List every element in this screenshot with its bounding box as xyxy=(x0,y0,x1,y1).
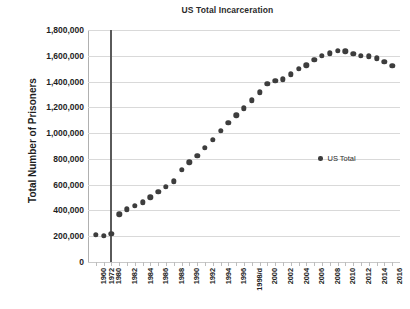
data-point[interactable] xyxy=(132,203,137,208)
data-point[interactable] xyxy=(210,137,215,142)
x-axis-tick-label: 1992 xyxy=(208,268,217,284)
x-axis-tick-label: 1982 xyxy=(130,268,139,284)
x-axis-tick xyxy=(299,262,300,266)
x-axis-tick xyxy=(252,262,253,266)
data-point[interactable] xyxy=(288,72,293,77)
data-point[interactable] xyxy=(101,233,106,238)
x-axis-tick-label: 2012 xyxy=(364,268,373,284)
x-axis-tick xyxy=(96,262,97,266)
x-axis-tick xyxy=(166,262,167,266)
x-axis-tick-label: 1998/d xyxy=(255,268,264,291)
data-point[interactable] xyxy=(187,160,192,165)
x-axis-tick xyxy=(197,262,198,266)
chart-legend: US Total xyxy=(318,154,356,163)
x-axis-tick xyxy=(384,262,385,266)
data-point[interactable] xyxy=(304,63,309,68)
x-axis-tick-label: 2010 xyxy=(348,268,357,284)
x-axis-tick xyxy=(314,262,315,266)
data-point[interactable] xyxy=(374,56,379,61)
data-point[interactable] xyxy=(366,53,371,58)
y-axis-tick-label: 1,200,000 xyxy=(0,102,84,112)
x-axis-tick xyxy=(213,262,214,266)
data-point[interactable] xyxy=(335,48,340,53)
x-axis-tick-label: 2000 xyxy=(270,268,279,284)
x-axis-tick xyxy=(361,262,362,266)
x-axis-tick xyxy=(369,262,370,266)
data-point[interactable] xyxy=(343,49,348,54)
data-point[interactable] xyxy=(233,113,238,118)
x-axis-tick xyxy=(306,262,307,266)
y-axis-tick-label: 0 xyxy=(0,257,84,267)
x-axis-tick xyxy=(228,262,229,266)
data-point[interactable] xyxy=(226,120,231,125)
x-axis-tick xyxy=(353,262,354,266)
x-axis-tick xyxy=(104,262,105,266)
gridline xyxy=(88,210,400,211)
y-axis-tick-label: 1,800,000 xyxy=(0,25,84,35)
x-axis-tick xyxy=(244,262,245,266)
x-axis-ticks xyxy=(88,262,400,267)
x-axis-tick xyxy=(377,262,378,266)
x-axis-tick xyxy=(275,262,276,266)
chart-container: US Total Incarceration Total Number of P… xyxy=(0,0,410,309)
data-point[interactable] xyxy=(358,53,363,58)
data-point[interactable] xyxy=(155,189,160,194)
x-axis-tick-label: 1990 xyxy=(192,268,201,284)
x-axis-tick-label: 2006 xyxy=(317,268,326,284)
x-axis-tick xyxy=(392,262,393,266)
x-axis-tick-label: 1984 xyxy=(146,268,155,284)
data-point[interactable] xyxy=(116,212,121,217)
data-point[interactable] xyxy=(171,178,176,183)
data-point[interactable] xyxy=(140,200,145,205)
x-axis-tick xyxy=(182,262,183,266)
x-axis-tick xyxy=(221,262,222,266)
data-point[interactable] xyxy=(179,167,184,172)
data-point[interactable] xyxy=(241,106,246,111)
x-axis-tick-labels: 1960197219801982198419861988199019921994… xyxy=(88,268,400,309)
x-axis-tick-label: 2008 xyxy=(333,268,342,284)
x-axis-tick xyxy=(127,262,128,266)
x-axis-tick xyxy=(267,262,268,266)
x-axis-tick-label: 1980 xyxy=(114,268,123,284)
data-point[interactable] xyxy=(202,145,207,150)
x-axis-tick xyxy=(119,262,120,266)
x-axis-tick-label: 2002 xyxy=(286,268,295,284)
gridline xyxy=(88,185,400,186)
y-axis-tick-label: 1,400,000 xyxy=(0,77,84,87)
data-point[interactable] xyxy=(311,57,316,62)
data-point[interactable] xyxy=(249,98,254,103)
data-point[interactable] xyxy=(257,89,262,94)
x-axis-tick-label: 1994 xyxy=(224,268,233,284)
x-axis-tick xyxy=(205,262,206,266)
x-axis-tick xyxy=(135,262,136,266)
x-axis-tick xyxy=(174,262,175,266)
x-axis-tick xyxy=(236,262,237,266)
x-axis-tick-label: 2004 xyxy=(302,268,311,284)
data-point[interactable] xyxy=(194,153,199,158)
data-point[interactable] xyxy=(163,184,168,189)
x-axis-tick xyxy=(345,262,346,266)
data-point[interactable] xyxy=(265,81,270,86)
x-axis-tick xyxy=(150,262,151,266)
y-axis-tick-label: 400,000 xyxy=(0,205,84,215)
gridline xyxy=(88,82,400,83)
x-axis-tick xyxy=(322,262,323,266)
data-point[interactable] xyxy=(148,194,153,199)
circle-marker-icon xyxy=(318,156,323,161)
y-axis-tick-labels: 1,800,0001,600,0001,400,0001,200,0001,00… xyxy=(0,0,84,309)
data-point[interactable] xyxy=(382,59,387,64)
gridline xyxy=(88,30,400,31)
data-point[interactable] xyxy=(319,53,324,58)
x-axis-tick-label: 2016 xyxy=(395,268,404,284)
data-point[interactable] xyxy=(389,63,394,68)
x-axis-tick-label: 1988 xyxy=(177,268,186,284)
x-axis-tick xyxy=(260,262,261,266)
plot-area xyxy=(88,30,400,262)
x-axis-tick xyxy=(330,262,331,266)
x-axis-tick xyxy=(291,262,292,266)
x-axis-tick xyxy=(158,262,159,266)
y-axis-tick-label: 1,600,000 xyxy=(0,51,84,61)
data-point[interactable] xyxy=(272,78,277,83)
data-point[interactable] xyxy=(296,66,301,71)
x-axis-tick xyxy=(143,262,144,266)
